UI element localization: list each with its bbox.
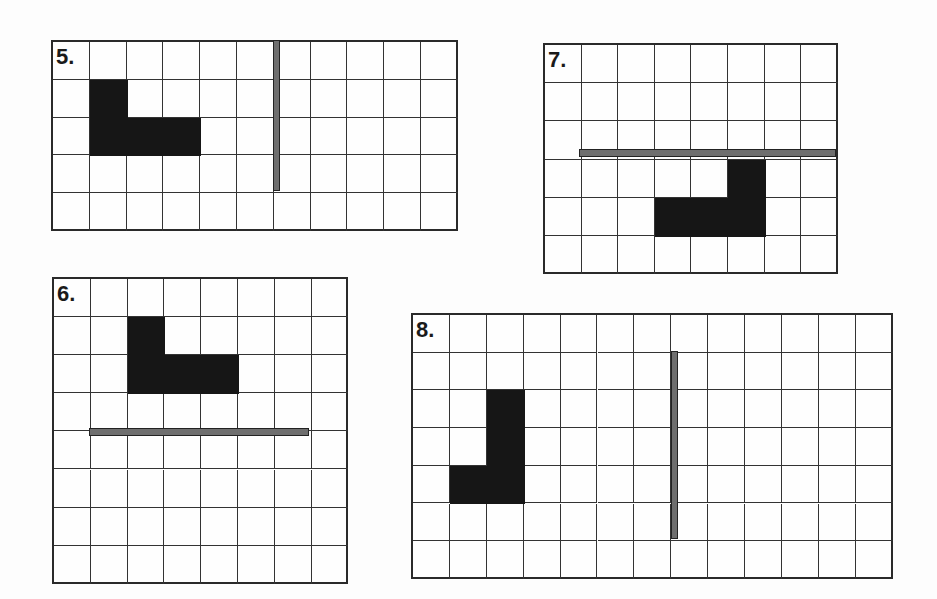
mirror-line — [89, 428, 309, 436]
grid-cell — [801, 198, 838, 236]
grid-cell — [201, 279, 238, 317]
grid-cell — [90, 155, 127, 193]
grid-cell — [200, 118, 237, 156]
grid-cell — [200, 42, 237, 80]
grid-cell — [238, 546, 275, 584]
grid-cell — [238, 355, 275, 393]
grid-cell — [745, 504, 782, 542]
grid-cell — [347, 155, 384, 193]
grid-cell — [545, 236, 582, 274]
grid-cell — [90, 193, 127, 231]
grid-cell — [201, 431, 238, 469]
grid-cell — [128, 546, 165, 584]
grid-cell — [524, 428, 561, 466]
grid-cell — [782, 353, 819, 391]
grid-cell — [819, 315, 856, 353]
grid-cell — [801, 160, 838, 198]
grid-cell — [127, 193, 164, 231]
grid-cell — [164, 546, 201, 584]
mirror-line — [579, 149, 836, 157]
grid-cell — [655, 236, 692, 274]
grid-cell — [163, 42, 200, 80]
shaded-shape-cell — [728, 198, 766, 237]
grid-cell — [582, 198, 619, 236]
grid-cell — [618, 83, 655, 121]
grid-cell — [201, 546, 238, 584]
grid-cell — [128, 470, 165, 508]
shaded-shape-cell — [487, 428, 525, 467]
grid-cell — [801, 236, 838, 274]
grid-cell — [782, 315, 819, 353]
grid-cell — [634, 315, 671, 353]
grid-cell — [421, 155, 458, 193]
grid-cell — [708, 315, 745, 353]
grid-cell — [312, 546, 349, 584]
grid-cell — [655, 160, 692, 198]
grid-cell — [347, 118, 384, 156]
reflection-grid-7: 7. — [543, 43, 838, 274]
grid-cell — [312, 355, 349, 393]
grid-cell — [561, 353, 598, 391]
shaded-shape-cell — [655, 198, 693, 237]
grid-cell — [745, 428, 782, 466]
grid-cell — [634, 504, 671, 542]
grid-cell — [128, 393, 165, 431]
grid-cell — [91, 470, 128, 508]
grid-cell — [200, 193, 237, 231]
grid-cell — [598, 315, 635, 353]
grid-cell — [655, 45, 692, 83]
grid-cell — [856, 353, 893, 391]
shaded-shape-cell — [127, 118, 165, 157]
grid-cell — [582, 236, 619, 274]
grid-cell — [275, 508, 312, 546]
grid-cell — [275, 546, 312, 584]
grid-cell — [275, 317, 312, 355]
grid-cell — [708, 541, 745, 579]
grid-cell — [765, 160, 802, 198]
grid-cell — [545, 83, 582, 121]
shaded-shape-cell — [450, 466, 488, 505]
grid-cell — [91, 317, 128, 355]
grid-cell — [819, 541, 856, 579]
shaded-shape-cell — [728, 160, 766, 199]
problem-number: 5. — [56, 46, 76, 68]
grid-cell — [90, 42, 127, 80]
grid-cell — [163, 80, 200, 118]
grid-cell — [708, 390, 745, 428]
grid-cell — [856, 504, 893, 542]
grid-cell — [311, 193, 348, 231]
shaded-shape-cell — [164, 355, 202, 394]
problem-number: 7. — [548, 49, 568, 71]
grid-cell — [856, 466, 893, 504]
grid-cell — [54, 431, 91, 469]
grid-cell — [347, 193, 384, 231]
grid-cell — [238, 470, 275, 508]
grid-cell — [487, 541, 524, 579]
grid-cell — [238, 431, 275, 469]
grid-cell — [413, 428, 450, 466]
grid-cell — [856, 428, 893, 466]
grid-cell — [91, 431, 128, 469]
grid-cell — [312, 508, 349, 546]
grid-cell — [634, 541, 671, 579]
grid-cell — [618, 160, 655, 198]
grid-cell — [708, 504, 745, 542]
grid-cell — [164, 470, 201, 508]
shaded-shape-cell — [487, 466, 525, 505]
grid-cell — [127, 155, 164, 193]
grid-cell — [450, 353, 487, 391]
grid-cell — [384, 42, 421, 80]
grid-cell — [524, 390, 561, 428]
grid-cell — [487, 315, 524, 353]
grid-cell — [413, 504, 450, 542]
grid-cell — [384, 80, 421, 118]
grid-cell — [582, 160, 619, 198]
grid-cell — [53, 80, 90, 118]
grid-cell — [655, 83, 692, 121]
grid-cell — [598, 504, 635, 542]
reflection-grid-8: 8. — [411, 313, 893, 579]
grid-cell — [128, 431, 165, 469]
grid-cell — [200, 80, 237, 118]
shaded-shape-cell — [691, 198, 729, 237]
grid-cell — [618, 236, 655, 274]
